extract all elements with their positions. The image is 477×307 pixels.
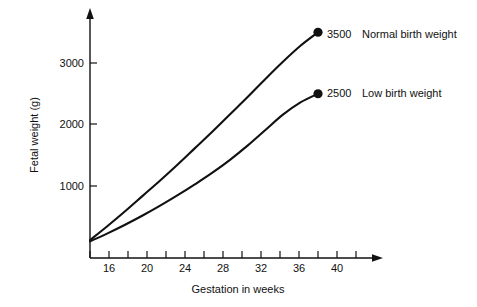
endpoint-marker-low: [313, 89, 322, 98]
curve-low-birth-weight: [90, 94, 318, 242]
x-tick-label-32: 32: [255, 262, 267, 274]
annotation-value-normal: 3500: [327, 28, 351, 40]
fetal-growth-chart: 3000 2000 1000 16 20 24 28: [0, 0, 477, 307]
x-tick-label-16: 16: [103, 262, 115, 274]
x-tick-label-40: 40: [331, 262, 343, 274]
x-tick-marks: [90, 251, 356, 258]
x-tick-label-28: 28: [217, 262, 229, 274]
x-axis: [90, 254, 383, 262]
x-tick-label-36: 36: [293, 262, 305, 274]
annotation-value-low: 2500: [327, 87, 351, 99]
y-tick-label-3000: 3000: [60, 57, 84, 69]
y-tick-label-1000: 1000: [60, 180, 84, 192]
annotation-caption-normal: Normal birth weight: [362, 28, 457, 40]
y-axis-arrow-icon: [86, 8, 94, 19]
y-tick-label-2000: 2000: [60, 118, 84, 130]
x-axis-title: Gestation in weeks: [192, 283, 285, 295]
x-tick-label-20: 20: [141, 262, 153, 274]
y-tick-marks: [90, 63, 97, 186]
annotation-normal: 3500 Normal birth weight: [327, 28, 457, 40]
x-axis-arrow-icon: [372, 254, 383, 262]
chart-canvas: 3000 2000 1000 16 20 24 28: [0, 0, 477, 307]
curve-normal-birth-weight: [90, 32, 318, 240]
endpoint-marker-normal: [313, 28, 322, 37]
y-axis: [86, 8, 94, 258]
annotation-caption-low: Low birth weight: [362, 87, 442, 99]
y-tick-labels: 3000 2000 1000: [60, 57, 84, 192]
y-axis-title: Fetal weight (g): [28, 97, 40, 173]
x-tick-labels: 16 20 24 28 32 36 40: [103, 262, 343, 274]
annotation-low: 2500 Low birth weight: [327, 87, 442, 99]
x-tick-label-24: 24: [179, 262, 191, 274]
